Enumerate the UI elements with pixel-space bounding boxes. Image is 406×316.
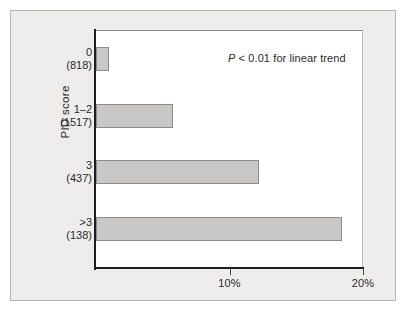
x-tick-mark [230,269,231,275]
x-tick-label: 20% [352,277,375,289]
category-name: 3 [66,159,92,172]
category-count: (437) [66,172,92,185]
figure-container: 0(818)1–2(1517)3(437)>3(138) 10%20% PID … [0,0,406,316]
bar-0 [96,47,109,71]
y-category-label: >3(138) [66,216,92,242]
category-name: 0 [66,46,92,59]
category-count: (138) [66,229,92,242]
bar-12 [96,104,173,128]
x-tick-label: 10% [218,277,241,289]
y-category-label: 3(437) [66,159,92,185]
bar-3 [96,160,259,184]
bar-3 [96,217,342,241]
y-axis-title: PID score [59,67,71,157]
significance-annotation: P < 0.01 for linear trend [228,52,346,64]
x-tick-mark [363,269,364,275]
category-name: >3 [66,216,92,229]
p-value-text: < 0.01 for linear trend [235,52,345,64]
